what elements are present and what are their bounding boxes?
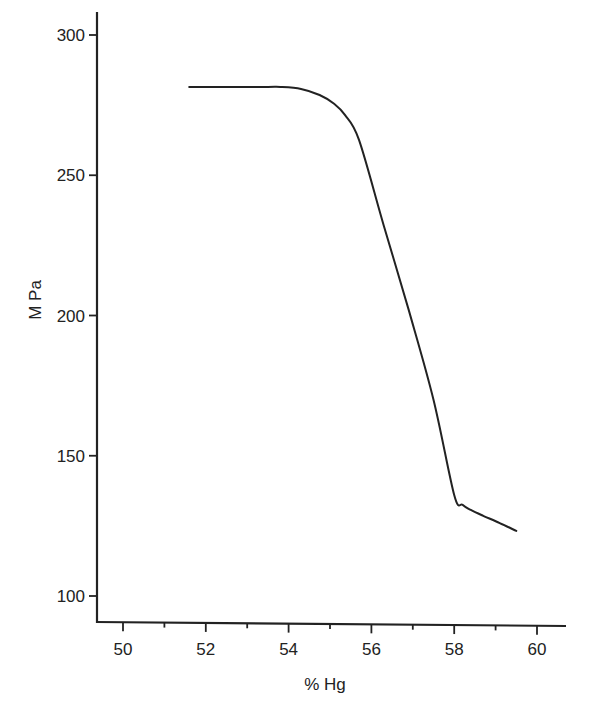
- x-tick-label: 56: [362, 640, 381, 659]
- x-axis-title: % Hg: [304, 675, 346, 694]
- y-tick-label: 300: [57, 26, 85, 45]
- y-tick-label: 150: [57, 447, 85, 466]
- y-axis-title: M Pa: [26, 280, 45, 320]
- x-tick-label: 58: [445, 640, 464, 659]
- y-tick-label: 100: [57, 587, 85, 606]
- x-tick-label: 50: [114, 640, 133, 659]
- x-tick-label: 60: [528, 640, 547, 659]
- data-series: [189, 87, 516, 531]
- x-tick-label: 52: [196, 640, 215, 659]
- chart: 100150200250300505254565860 % Hg M Pa: [0, 0, 603, 725]
- y-tick-label: 250: [57, 166, 85, 185]
- data-line: [189, 87, 516, 531]
- x-tick-label: 54: [279, 640, 298, 659]
- tick-labels: 100150200250300505254565860: [57, 26, 547, 659]
- y-tick-label: 200: [57, 307, 85, 326]
- ticks: [89, 35, 537, 635]
- axes: [96, 12, 566, 626]
